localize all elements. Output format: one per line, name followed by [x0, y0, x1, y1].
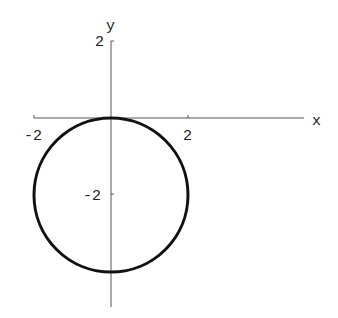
chart-svg: x y -2 2 2 -2 — [0, 0, 338, 318]
y-tick-label-neg: -2 — [83, 188, 101, 205]
x-tick-label-neg: -2 — [24, 128, 42, 145]
plot-area: x y -2 2 2 -2 — [0, 0, 338, 318]
x-axis-label: x — [312, 113, 321, 130]
y-axis-label: y — [106, 18, 115, 35]
y-tick-label-pos: 2 — [95, 34, 104, 51]
x-tick-label-pos: 2 — [183, 128, 192, 145]
